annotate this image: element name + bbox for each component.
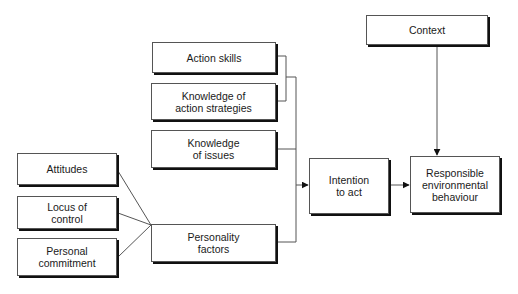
- node-intention-to-act: Intention to act: [309, 158, 389, 214]
- node-personality-factors: Personality factors: [151, 224, 276, 262]
- node-attitudes: Attitudes: [17, 153, 117, 185]
- bus-connector-top: [286, 77, 296, 242]
- node-context: Context: [366, 15, 488, 45]
- connector-locus-of-control: [118, 213, 151, 225]
- node-locus-of-control: Locus of control: [17, 196, 117, 229]
- node-knowledge-issues: Knowledge of issues: [151, 130, 276, 168]
- node-personal-commitment: Personal commitment: [17, 238, 117, 276]
- connector-attitudes: [118, 171, 151, 225]
- node-responsible-environmental-behaviour: Responsible environmental behaviour: [410, 156, 500, 213]
- connector-personal-commitment: [118, 225, 151, 257]
- node-action-skills: Action skills: [152, 42, 276, 73]
- node-knowledge-action-strategies: Knowledge of action strategies: [151, 83, 276, 120]
- bracket-action-skills-strategies: [276, 56, 286, 101]
